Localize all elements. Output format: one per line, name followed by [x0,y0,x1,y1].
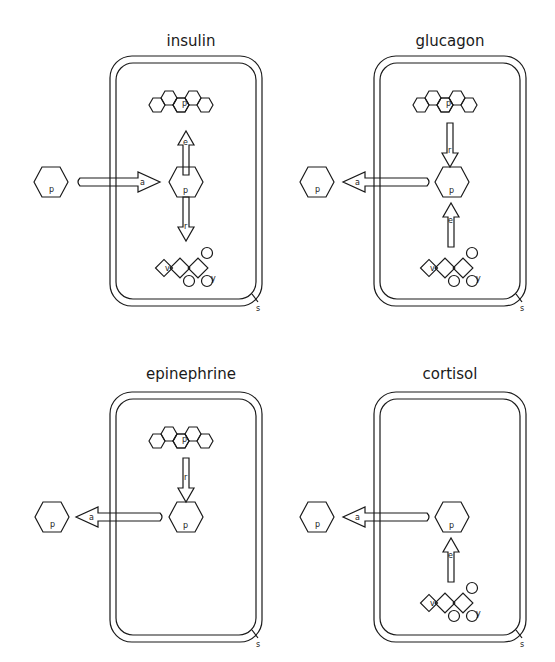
glycogen-icon [149,427,213,448]
cell-inner-membrane [380,399,520,635]
svg-text:p: p [449,186,454,195]
svg-text:r: r [184,473,188,482]
svg-text:v: v [430,599,435,608]
svg-text:y: y [476,274,481,283]
svg-text:e: e [183,138,188,147]
svg-text:y: y [476,609,481,618]
svg-text:p: p [50,520,55,529]
arrow-down-r-icon [178,197,194,241]
svg-text:r: r [184,222,188,231]
svg-text:y: y [211,274,216,283]
svg-text:v: v [430,264,435,273]
svg-text:s: s [520,640,524,649]
panel-cortisol: p e v y p a s [300,392,526,649]
svg-text:p: p [182,99,187,108]
arrow-up-e-icon [443,538,459,582]
svg-text:e: e [448,216,453,225]
svg-text:a: a [89,513,94,522]
arrow-down-r-icon [442,123,458,167]
svg-text:a: a [140,178,145,187]
cell-outer-membrane [374,392,526,642]
svg-text:s: s [256,304,260,313]
svg-text:p: p [182,435,187,444]
panel-glucagon: p r p e v y p a s [300,56,526,313]
svg-text:p: p [183,186,188,195]
panel-insulin: p e p r v y p a s [34,56,262,313]
svg-text:r: r [448,146,452,155]
svg-text:p: p [49,185,54,194]
svg-text:p: p [449,521,454,530]
svg-text:s: s [520,304,524,313]
svg-text:a: a [355,513,360,522]
svg-text:p: p [315,185,320,194]
diagram-canvas: p e p r v y p a s p r p e v y p a s [0,0,555,662]
cell-outer-membrane [110,392,262,642]
glycogen-icon [149,91,213,112]
svg-text:p: p [446,99,451,108]
transport-arrow-in-icon [78,172,160,192]
glycogen-icon [413,91,477,112]
svg-text:e: e [448,551,453,560]
svg-text:a: a [355,178,360,187]
svg-text:v: v [165,264,170,273]
cell-outer-membrane [110,56,262,306]
panel-epinephrine: p r p p a s [35,392,262,649]
svg-text:p: p [315,520,320,529]
cell-outer-membrane [374,56,526,306]
svg-text:p: p [183,521,188,530]
arrow-up-e-icon [443,203,459,247]
svg-text:s: s [256,640,260,649]
